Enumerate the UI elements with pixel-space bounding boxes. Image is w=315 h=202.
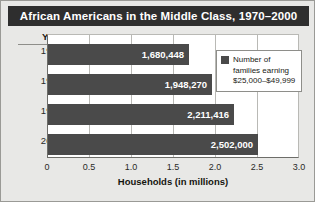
bar-value-1980: 1,948,270 xyxy=(165,79,207,90)
xtick-label-0: 0 xyxy=(32,162,62,172)
xtick-label-1.5: 1.5 xyxy=(158,162,188,172)
page-title: African Americans in the Middle Class, 1… xyxy=(20,10,297,22)
legend-entry: Number of families earning $25,000–$49,9… xyxy=(221,55,296,87)
bar-value-1970: 1,680,448 xyxy=(142,49,184,60)
bar-value-2000: 2,502,000 xyxy=(211,139,253,150)
chart-body: Year 1970 1980 1990 2000 1,680,448 1,948… xyxy=(8,28,309,196)
legend-label-line-1: Number of xyxy=(233,55,295,66)
legend-label: Number of families earning $25,000–$49,9… xyxy=(233,55,295,87)
xtick-label-1.0: 1.0 xyxy=(116,162,146,172)
bar-1990[interactable]: 2,211,416 xyxy=(48,104,234,125)
legend-swatch-icon xyxy=(221,56,229,64)
legend-label-line-3: $25,000–$49,999 xyxy=(233,76,295,87)
bar-value-1990: 2,211,416 xyxy=(187,109,229,120)
xtick-label-0.5: 0.5 xyxy=(74,162,104,172)
bar-1980[interactable]: 1,948,270 xyxy=(48,74,212,95)
xtick-label-2.0: 2.0 xyxy=(200,162,230,172)
chart-figure: African Americans in the Middle Class, 1… xyxy=(0,0,315,202)
bar-1970[interactable]: 1,680,448 xyxy=(48,44,189,65)
plot-area: 1,680,448 1,948,270 2,211,416 2,502,000 … xyxy=(47,34,299,158)
chart-title-bar: African Americans in the Middle Class, 1… xyxy=(8,6,309,26)
xtick-label-2.5: 2.5 xyxy=(242,162,272,172)
bar-2000[interactable]: 2,502,000 xyxy=(48,134,258,155)
xtick-label-3.0: 3.0 xyxy=(284,162,314,172)
legend-label-line-2: families earning xyxy=(233,66,295,77)
chart-legend: Number of families earning $25,000–$49,9… xyxy=(216,50,302,92)
x-axis-title: Households (in millions) xyxy=(47,176,299,187)
